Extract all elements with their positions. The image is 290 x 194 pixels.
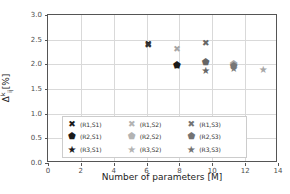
legend-item: ✖(R1,S3) [184,120,244,129]
x-axis-title: Number of parameters [M] [47,172,277,182]
legend-marker-icon: ★ [186,145,196,155]
legend-marker-icon: ✖ [127,120,137,129]
tick-x [48,163,49,166]
tick-label-y: 3.0 [31,11,42,19]
legend-marker-icon: ⬟ [186,132,196,141]
gridline-horizontal [48,114,276,115]
data-point: ★ [229,64,238,74]
legend-item: ⬟(R2,S1) [65,132,125,141]
tick-label-y: 0.0 [31,159,42,167]
data-point: ★ [259,65,268,75]
gridline-horizontal [48,64,276,65]
tick-label-y: 1.0 [31,110,42,118]
data-point: ★ [201,66,210,76]
tick-y [45,40,48,41]
data-point: ✖ [144,40,152,49]
gridline-horizontal [48,40,276,41]
y-axis-title: Δkij[%] [0,74,13,103]
legend-marker-icon: ★ [127,145,137,155]
legend-label: (R2,S2) [140,133,162,140]
legend-marker-icon: ✖ [186,120,196,129]
legend-item: ★(R3,S2) [125,145,185,155]
legend-marker-icon: ⬟ [67,132,77,141]
legend-marker-icon: ★ [67,145,77,155]
legend-item: ⬟(R2,S2) [125,132,185,141]
tick-x [179,163,180,166]
tick-x [147,163,148,166]
legend-label: (R1,S2) [140,121,162,128]
tick-y [45,163,48,164]
tick-label-y: 1.5 [31,85,42,93]
legend-label: (R3,S1) [80,146,102,153]
tick-label-y: 2.5 [31,36,42,44]
legend-item: ★(R3,S1) [65,145,125,155]
legend-item: ✖(R1,S1) [65,120,125,129]
legend-label: (R1,S1) [80,121,102,128]
legend-item: ✖(R1,S2) [125,120,185,129]
tick-y [45,114,48,115]
tick-y [45,64,48,65]
delta-subscript: ij [6,89,13,92]
tick-x [212,163,213,166]
tick-x [245,163,246,166]
delta-superscript: k [0,93,6,96]
data-point: ⬟ [230,62,238,71]
legend-label: (R1,S3) [199,121,221,128]
legend-label: (R2,S1) [80,133,102,140]
tick-label-y: 0.5 [31,134,42,142]
y-axis-unit: [%] [1,74,11,90]
legend-item: ⬟(R2,S3) [184,132,244,141]
data-point: ✖ [144,40,152,49]
y-axis-delta-symbol: Δkij [0,89,13,102]
legend: ✖(R1,S1)✖(R1,S2)✖(R1,S3)⬟(R2,S1)⬟(R2,S2)… [62,116,247,158]
legend-label: (R3,S3) [199,146,221,153]
tick-x [278,163,279,166]
tick-label-y: 2.0 [31,60,42,68]
delta-glyph: Δ [1,96,11,102]
tick-y [45,89,48,90]
gridline-horizontal [48,89,276,90]
tick-x [114,163,115,166]
tick-y [45,15,48,16]
legend-marker-icon: ✖ [67,120,77,129]
legend-marker-icon: ⬟ [127,132,137,141]
legend-label: (R2,S3) [199,133,221,140]
legend-label: (R3,S2) [140,146,162,153]
tick-x [81,163,82,166]
legend-item: ★(R3,S3) [184,145,244,155]
tick-y [45,138,48,139]
figure: 02468101214 0.00.51.01.52.02.53.0 ✖⬟★✖⬟★… [0,0,290,194]
